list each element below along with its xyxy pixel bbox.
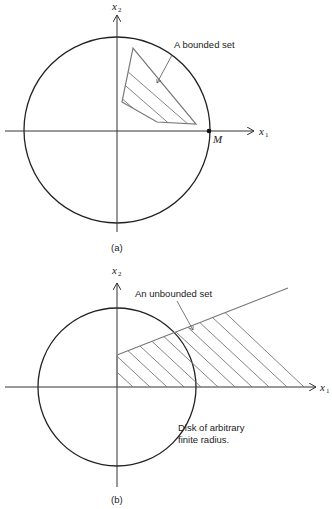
disk-label-line2: finite radius. — [178, 434, 229, 445]
set-leader-arrow — [157, 55, 172, 83]
x2-sub: 2 — [118, 6, 122, 14]
caption-a: (a) — [111, 242, 123, 253]
unbounded-set — [60, 285, 304, 387]
point-m — [207, 129, 212, 134]
figure-b: An unbounded set Disk of arbitrary finit… — [5, 264, 330, 505]
x2-sub: 2 — [118, 270, 122, 278]
x1-sub: 1 — [265, 131, 269, 139]
x1-sub: 1 — [326, 387, 330, 395]
x2-label: x — [111, 264, 117, 276]
caption-b: (b) — [111, 494, 123, 505]
disk-label-line1: Disk of arbitrary — [178, 422, 245, 433]
set-leader-arrow — [177, 301, 193, 330]
x1-label: x — [319, 381, 325, 393]
bounded-set — [80, 30, 220, 216]
x2-label: x — [111, 0, 117, 12]
bounded-set-label: A bounded set — [174, 39, 235, 50]
figure-a: A bounded set M x 1 x 2 (a) — [5, 0, 269, 253]
diagram-canvas: A bounded set M x 1 x 2 (a) — [0, 0, 332, 509]
x1-label: x — [258, 125, 264, 137]
unbounded-set-label: An unbounded set — [135, 288, 212, 299]
point-m-label: M — [212, 133, 223, 145]
